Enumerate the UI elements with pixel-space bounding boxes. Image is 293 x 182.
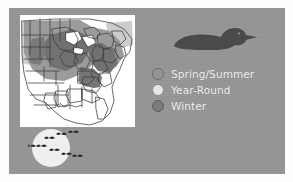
legend: Spring/Summer Year-Round Winter [152, 66, 282, 114]
migrating-birds-over-moon [28, 126, 98, 172]
legend-swatch-year-round [152, 84, 164, 96]
legend-label-year-round: Year-Round [171, 84, 231, 96]
legend-swatch-winter [152, 100, 164, 112]
legend-label-spring-summer: Spring/Summer [171, 68, 254, 80]
legend-swatch-spring-summer [152, 68, 164, 80]
legend-item-winter[interactable]: Winter [152, 98, 282, 113]
us-range-map [20, 15, 135, 127]
loon-silhouette [166, 24, 258, 58]
legend-label-winter: Winter [171, 100, 206, 112]
figure-root: Spring/Summer Year-Round Winter [0, 0, 293, 182]
legend-item-year-round[interactable]: Year-Round [152, 82, 282, 97]
legend-item-spring-summer[interactable]: Spring/Summer [152, 66, 282, 81]
